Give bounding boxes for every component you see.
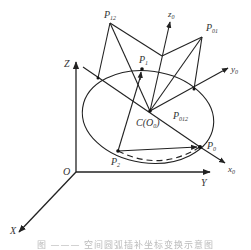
label-origin: O: [63, 166, 70, 177]
svg-text:P1: P1: [138, 54, 148, 66]
label-p2: P: [110, 156, 117, 167]
svg-text:x0: x0: [227, 164, 235, 175]
points: [97, 67, 203, 153]
label-p1: P: [138, 54, 145, 65]
label-p01: P: [205, 22, 212, 33]
point-center: [148, 109, 152, 113]
point-p2: [116, 149, 120, 153]
label-z: Z: [64, 58, 70, 69]
svg-text:P0: P0: [206, 140, 216, 152]
labels: Z Y X O z0 y0 x0 P12 P01 P1 P012 P0 P2 C…: [9, 9, 238, 236]
point-p0: [198, 145, 202, 149]
point-p1: [140, 67, 144, 71]
label-p12: P: [103, 9, 110, 20]
svg-text:P12: P12: [103, 9, 116, 21]
svg-text:C(O0): C(O0): [136, 117, 160, 129]
label-x: X: [9, 225, 17, 236]
label-p0: P: [206, 140, 213, 151]
coordinate-transform-diagram: Z Y X O z0 y0 x0 P12 P01 P1 P012 P0 P2 C…: [0, 0, 251, 250]
svg-text:P01: P01: [205, 22, 218, 34]
figure-caption: 图 ——— 空间圆弧插补坐标变换示意图: [0, 238, 251, 250]
svg-text:P012: P012: [172, 110, 188, 122]
point-intersection-left: [97, 77, 100, 80]
point-intersection-right: [193, 88, 196, 91]
p1-arrow: [140, 72, 141, 80]
svg-text:z0: z0: [167, 9, 175, 20]
svg-text:y0: y0: [230, 64, 238, 75]
label-center: C(O: [136, 117, 153, 129]
label-y: Y: [201, 177, 208, 188]
label-p012: P: [172, 110, 179, 121]
global-axes: [19, 62, 210, 232]
x-axis: [19, 172, 76, 232]
local-axes: [140, 22, 228, 163]
construction-lines: [83, 23, 202, 151]
y0-axis: [150, 68, 228, 111]
svg-text:P2: P2: [110, 156, 120, 168]
